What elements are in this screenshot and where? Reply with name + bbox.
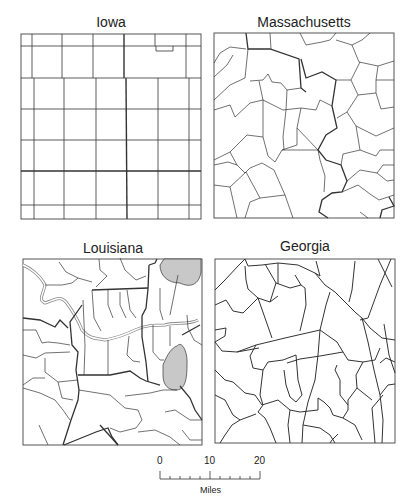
county-maps bbox=[0, 0, 418, 504]
scale-bar-line bbox=[150, 455, 280, 485]
scale-unit-label: Miles bbox=[200, 485, 221, 495]
georgia-map bbox=[215, 259, 395, 443]
scale-bar: 0 10 20 Miles bbox=[150, 455, 280, 500]
louisiana-map bbox=[23, 258, 202, 445]
iowa-map bbox=[21, 34, 201, 219]
massachusetts-map bbox=[214, 33, 394, 218]
